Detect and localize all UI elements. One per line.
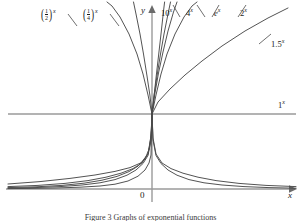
curve-10-x (8, 2, 165, 189)
paren-right: ) (91, 10, 94, 19)
label-base: 10 (161, 8, 170, 18)
leader-one-five (259, 34, 271, 44)
curve-label-one-quarter: (14)x (82, 8, 98, 21)
exponent: x (282, 99, 285, 105)
y-axis-arrowhead (148, 5, 155, 13)
fraction-denominator: 2 (45, 14, 48, 21)
origin-label: 0 (140, 190, 145, 200)
curve-label-one-half: (12)x (40, 8, 56, 21)
label-base: 1.5 (271, 39, 282, 49)
curve-4-x (8, 2, 171, 188)
leader-one-quarter (110, 14, 119, 26)
curve-label-2: 2x (240, 9, 247, 18)
x-axis-label: x (288, 190, 292, 200)
leader-one-half (68, 14, 77, 26)
figure-caption: Figure 3 Graphs of exponential functions (0, 213, 301, 221)
curve-label-4: 4x (186, 9, 193, 18)
curve-one-quarter-x (134, 2, 297, 188)
plot-canvas (0, 0, 301, 221)
curve-one-half-x (107, 2, 296, 187)
y-axis-label: y (141, 5, 145, 15)
paren-right: ) (49, 10, 52, 19)
curve-label-10: 10x (161, 9, 172, 18)
exponent: x (95, 8, 98, 14)
fraction-numerator: 1 (45, 8, 48, 14)
paren-left: ( (41, 10, 44, 19)
exponent: x (53, 8, 56, 14)
curve-label-1-5: 1.5x (271, 40, 284, 49)
fraction-denominator: 4 (87, 14, 90, 21)
exponent: x (218, 7, 221, 13)
paren-left: ( (83, 10, 86, 19)
exponent: x (282, 38, 285, 44)
fraction-numerator: 1 (87, 8, 90, 14)
leader-four (197, 5, 205, 17)
curve-label-1: 1x (278, 101, 285, 110)
curve-label-e: ex (214, 9, 220, 18)
exponent: x (170, 7, 173, 13)
exponent: x (244, 7, 247, 13)
exponential-functions-figure: (12)x (14)x 10x 4x ex 2x 1.5x 1x y x 0 F… (0, 0, 301, 221)
exponent: x (190, 7, 193, 13)
